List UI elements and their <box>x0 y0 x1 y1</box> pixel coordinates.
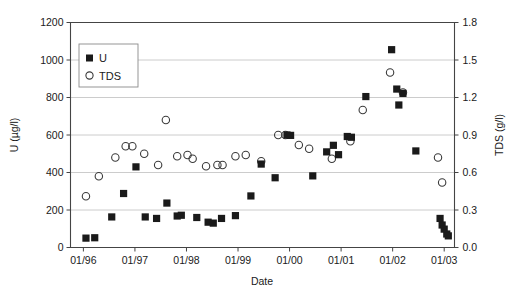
y-tick-label: 1200 <box>40 16 64 28</box>
y-tick-label: 200 <box>46 204 64 216</box>
data-point-u <box>412 147 419 154</box>
data-point-u <box>132 163 139 170</box>
data-point-u <box>108 213 115 220</box>
chart-legend: U TDS <box>79 44 138 87</box>
y2-tick-label: 0.3 <box>463 204 478 216</box>
data-point-u <box>395 101 402 108</box>
y2-tick-label: 0.6 <box>463 166 478 178</box>
data-point-u <box>142 213 149 220</box>
data-point-u <box>232 212 239 219</box>
data-point-u <box>399 90 406 97</box>
legend-label-tds: TDS <box>99 70 121 82</box>
legend-label-u: U <box>99 52 107 64</box>
data-point-u <box>91 234 98 241</box>
data-point-u <box>323 148 330 155</box>
data-point-u <box>163 199 170 206</box>
data-point-u <box>178 212 185 219</box>
x-tick-label: 01/01 <box>328 254 354 266</box>
y-tick-label: 400 <box>46 166 64 178</box>
data-point-u <box>82 235 89 242</box>
data-point-u <box>362 93 369 100</box>
y-tick-label: 600 <box>46 129 64 141</box>
x-axis-title: Date <box>251 275 273 287</box>
data-point-u <box>153 215 160 222</box>
data-point-u <box>335 151 342 158</box>
data-point-u <box>247 192 254 199</box>
y2-tick-label: 1.8 <box>463 16 478 28</box>
data-point-u <box>193 214 200 221</box>
scatter-chart: 01/9601/9701/9801/9901/0001/0101/0201/03… <box>0 0 519 295</box>
y-axis-right-title: TDS (g/l) <box>493 114 505 156</box>
x-tick-label: 01/02 <box>380 254 406 266</box>
data-point-u <box>436 215 443 222</box>
x-tick-label: 01/97 <box>122 254 148 266</box>
y-tick-label: 0 <box>58 241 64 253</box>
data-point-u <box>258 160 265 167</box>
y2-tick-label: 1.2 <box>463 91 478 103</box>
y2-tick-label: 0.9 <box>463 129 478 141</box>
data-point-u <box>120 190 127 197</box>
x-tick-label: 01/03 <box>431 254 457 266</box>
data-point-u <box>287 132 294 139</box>
chart-background <box>0 0 519 295</box>
chart-figure: 01/9601/9701/9801/9901/0001/0101/0201/03… <box>0 0 519 295</box>
legend-marker-u <box>86 55 93 62</box>
data-point-u <box>330 142 337 149</box>
x-tick-label: 01/98 <box>173 254 199 266</box>
x-tick-label: 01/99 <box>225 254 251 266</box>
data-point-u <box>218 215 225 222</box>
data-point-u <box>210 220 217 227</box>
data-point-u <box>445 232 452 239</box>
data-point-u <box>393 85 400 92</box>
y-tick-label: 800 <box>46 91 64 103</box>
data-point-u <box>309 172 316 179</box>
y2-tick-label: 0.0 <box>463 241 478 253</box>
x-tick-label: 01/00 <box>276 254 302 266</box>
x-tick-label: 01/96 <box>70 254 96 266</box>
y-axis-left-title: U (µg/l) <box>8 118 20 153</box>
data-point-u <box>388 46 395 53</box>
y2-tick-label: 1.5 <box>463 54 478 66</box>
data-point-u <box>348 134 355 141</box>
y-tick-label: 1000 <box>40 54 64 66</box>
data-point-u <box>272 174 279 181</box>
